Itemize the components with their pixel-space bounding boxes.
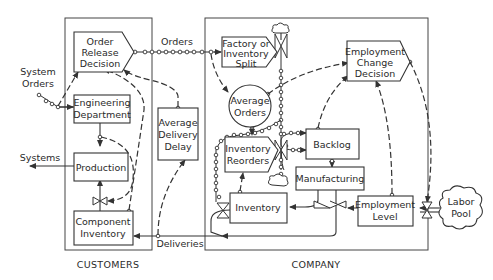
system-orders-label-line2: Orders (22, 78, 54, 89)
node-label: Department (73, 109, 131, 120)
backlog-to-employment-decision-info (318, 76, 348, 128)
node-label: Orders (234, 107, 266, 118)
factory-or-inventory-split-node[interactable]: Factory or Inventory Split (222, 37, 277, 69)
node-label: Inventory (225, 143, 271, 154)
node-label: Delivery (158, 129, 198, 140)
node-label: Decision (355, 68, 395, 79)
node-label: Change (357, 57, 394, 68)
node-label: Release (81, 47, 118, 58)
average-delivery-delay-node[interactable]: Average Delivery Delay (158, 108, 198, 160)
node-label: Inventory (235, 202, 281, 213)
inventory-reorders-node[interactable]: Inventory Reorders (225, 137, 278, 172)
inventory-to-reorders-info (240, 173, 243, 191)
orders-flow (133, 50, 221, 54)
node-label: Reorders (227, 155, 269, 166)
node-label: Engineering (74, 97, 131, 108)
manufacturing-node[interactable]: Manufacturing (296, 167, 365, 190)
systems-label: Systems (20, 152, 60, 163)
labor-valve-icon (422, 202, 432, 218)
customers-label: CUSTOMERS (77, 259, 139, 270)
reorders-sink-cloud-icon (268, 174, 288, 186)
component-inventory-node[interactable]: Component Inventory (74, 211, 133, 245)
node-label: Labor (448, 196, 475, 207)
backlog-node[interactable]: Backlog (306, 129, 359, 159)
orders-label: Orders (161, 36, 193, 47)
system-orders-label-line1: System (20, 66, 55, 77)
system-orders-flow (37, 93, 74, 109)
node-label: Average (230, 95, 269, 106)
node-label: Employment (345, 46, 405, 57)
average-orders-node[interactable]: Average Orders (229, 85, 271, 127)
employment-level-to-decision-info (376, 81, 392, 194)
node-label: Component (75, 216, 130, 227)
manufacturing-valve-icon (314, 201, 346, 208)
node-label: Split (235, 58, 256, 69)
node-label: Pool (451, 208, 471, 219)
production-node[interactable]: Production (74, 153, 128, 181)
node-label: Employment (355, 199, 415, 210)
avg-delivery-delay-to-order-release-info (124, 70, 178, 107)
deliveries-to-avg-delivery-delay-info (158, 160, 185, 235)
labor-pool-node[interactable]: Labor Pool (439, 186, 482, 229)
system-dynamics-diagram: CUSTOMERS COMPANY (0, 0, 493, 280)
node-label: Order (87, 36, 114, 47)
node-label: Production (76, 162, 127, 173)
employment-level-node[interactable]: Employment Level (355, 196, 415, 226)
company-label: COMPANY (292, 259, 341, 270)
node-label: Average (158, 117, 197, 128)
deliveries-label: Deliveries (156, 238, 203, 249)
engineering-department-node[interactable]: Engineering Department (73, 95, 131, 123)
inventory-node[interactable]: Inventory (230, 193, 287, 223)
order-release-decision-node[interactable]: Order Release Decision (74, 32, 134, 72)
node-label: Delay (164, 141, 192, 152)
node-label: Manufacturing (296, 173, 365, 184)
node-label: Inventory (80, 228, 126, 239)
node-label: Backlog (313, 139, 351, 150)
node-label: Level (372, 211, 397, 222)
node-label: Decision (80, 58, 120, 69)
employment-change-decision-node[interactable]: Employment Change Decision (345, 41, 410, 81)
